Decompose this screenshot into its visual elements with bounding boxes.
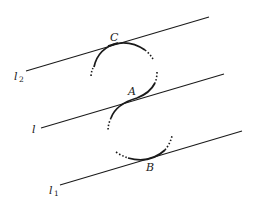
point-label-c: C	[110, 31, 119, 44]
upper-arc-dotted-right	[145, 50, 153, 59]
lower-arc-dotted-left	[108, 118, 111, 131]
upper-arc-dotted-left	[91, 68, 93, 78]
upper-arc-solid-lower-right	[137, 83, 155, 98]
line-l	[41, 74, 224, 128]
diagram-canvas: C A B l 2 l l 1	[0, 0, 255, 202]
line-label-l1: l	[49, 184, 53, 197]
lower-arc-dotted-bottom-left	[116, 152, 128, 158]
line-label-l1-subscript: 1	[54, 189, 59, 198]
lower-arc-dotted-right	[165, 136, 172, 150]
upper-arc-dotted-lower-right	[155, 72, 157, 83]
lower-arc-solid-bottom	[128, 150, 165, 160]
line-label-l2-subscript: 2	[19, 75, 24, 84]
point-label-b: B	[145, 161, 154, 174]
point-label-a: A	[127, 85, 136, 98]
line-label-l: l	[32, 123, 36, 136]
line-label-l2: l	[14, 70, 18, 83]
upper-arc-solid-left	[94, 43, 118, 67]
